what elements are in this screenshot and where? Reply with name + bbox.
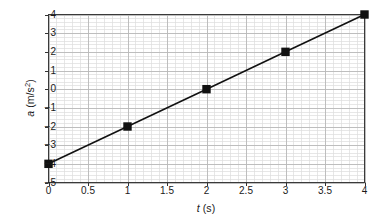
x-tick-label: 2.5 (226, 186, 266, 196)
plot-frame (49, 15, 365, 183)
y-tick-label: 4 (30, 10, 56, 20)
y-tick-label: −5 (30, 178, 56, 188)
y-tick-label: −1 (30, 103, 56, 113)
y-tick-label: −4 (30, 159, 56, 169)
x-tick-label: 1 (108, 186, 148, 196)
acceleration-vs-time-chart: a (m/s2) t (s) 00.511.522.533.5443210−1−… (0, 0, 386, 224)
x-tick-label: 4 (345, 186, 385, 196)
y-tick-label: 3 (30, 28, 56, 38)
x-tick-label: 3 (266, 186, 306, 196)
data-point-4 (360, 10, 368, 18)
data-point-2 (202, 85, 210, 93)
x-tick-label: 1.5 (147, 186, 187, 196)
x-tick-label: 2 (187, 186, 227, 196)
y-tick-label: 2 (30, 47, 56, 57)
y-axis-title: a (m/s2) (18, 14, 42, 182)
y-tick-label: 0 (30, 84, 56, 94)
x-axis-title: t (s) (48, 202, 364, 214)
y-tick-label: −3 (30, 140, 56, 150)
y-tick-label: 1 (30, 66, 56, 76)
x-tick-label: 3.5 (305, 186, 345, 196)
data-point-1 (123, 122, 131, 130)
y-tick-label: −2 (30, 122, 56, 132)
data-point-3 (281, 48, 289, 56)
x-tick-label: 0.5 (68, 186, 108, 196)
major-gridlines (49, 15, 366, 184)
x-tick-label: 0 (29, 186, 69, 196)
minor-gridlines (49, 15, 366, 184)
